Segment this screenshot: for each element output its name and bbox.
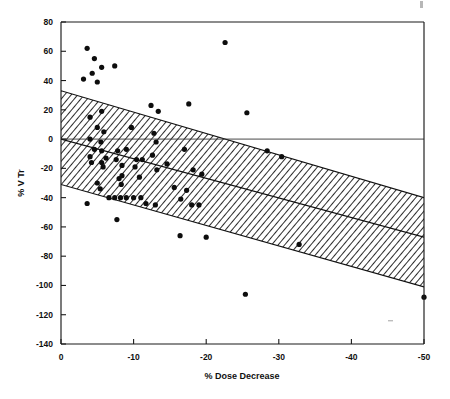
data-point xyxy=(89,160,94,165)
data-point xyxy=(115,148,120,153)
data-point xyxy=(101,129,106,134)
data-point xyxy=(95,79,100,84)
data-point xyxy=(178,197,183,202)
y-tick-label: -20 xyxy=(41,163,54,173)
data-point xyxy=(131,195,136,200)
data-point xyxy=(243,292,248,297)
plot-canvas: 806040200-20-40-60-80-100-120-140 0-10-2… xyxy=(0,0,450,399)
data-point xyxy=(101,164,106,169)
y-tick-label: 80 xyxy=(44,17,54,27)
data-point xyxy=(124,195,129,200)
data-point xyxy=(148,103,153,108)
data-point xyxy=(164,161,169,166)
data-point xyxy=(244,110,249,115)
data-point xyxy=(199,172,204,177)
data-point xyxy=(177,233,182,238)
data-point xyxy=(150,153,155,158)
data-point xyxy=(182,147,187,152)
data-point xyxy=(98,186,103,191)
data-point xyxy=(137,175,142,180)
x-tick-label: -20 xyxy=(200,352,213,362)
data-point xyxy=(297,242,302,247)
data-point xyxy=(85,201,90,206)
data-point xyxy=(87,154,92,159)
x-tick-label: -40 xyxy=(345,352,358,362)
scatter-plot-figure: 806040200-20-40-60-80-100-120-140 0-10-2… xyxy=(0,0,450,399)
data-point xyxy=(184,188,189,193)
data-point xyxy=(90,71,95,76)
bottom-right-speck-artifact xyxy=(388,320,393,321)
data-point xyxy=(85,46,90,51)
data-point xyxy=(114,217,119,222)
y-tick-label: -40 xyxy=(41,193,54,203)
y-tick-label: -140 xyxy=(36,339,53,349)
data-point xyxy=(118,195,123,200)
data-point xyxy=(106,195,111,200)
data-point xyxy=(99,109,104,114)
data-point xyxy=(114,157,119,162)
data-point xyxy=(189,202,194,207)
data-point xyxy=(204,235,209,240)
data-point xyxy=(265,148,270,153)
y-tick-label: 60 xyxy=(44,46,54,56)
data-point xyxy=(129,125,134,130)
data-point xyxy=(99,148,104,153)
y-tick-label: -100 xyxy=(36,280,53,290)
data-point xyxy=(95,180,100,185)
data-point xyxy=(112,63,117,68)
data-point xyxy=(156,109,161,114)
data-point xyxy=(140,157,145,162)
x-axis-title: % Dose Decrease xyxy=(204,371,279,381)
y-tick-label: 40 xyxy=(44,76,54,86)
y-tick-label: 0 xyxy=(48,134,53,144)
top-right-speck-artifact xyxy=(420,1,423,8)
data-point xyxy=(154,139,159,144)
data-point xyxy=(191,167,196,172)
data-point xyxy=(99,65,104,70)
data-point xyxy=(119,182,124,187)
data-point xyxy=(196,202,201,207)
data-point xyxy=(81,76,86,81)
data-point xyxy=(119,173,124,178)
data-point xyxy=(154,167,159,172)
data-point xyxy=(92,147,97,152)
y-tick-label: -80 xyxy=(41,251,54,261)
data-point xyxy=(151,131,156,136)
y-axis-title: % V Tr xyxy=(16,169,26,197)
data-point xyxy=(87,115,92,120)
y-tick-label: 20 xyxy=(44,105,54,115)
data-point xyxy=(87,136,92,141)
data-point xyxy=(138,195,143,200)
x-tick-label: -30 xyxy=(273,352,286,362)
data-point xyxy=(98,139,103,144)
y-tick-label: -60 xyxy=(41,222,54,232)
y-tick-label: -120 xyxy=(36,310,53,320)
data-point xyxy=(279,154,284,159)
data-point xyxy=(103,156,108,161)
x-tick-label: -10 xyxy=(127,352,140,362)
data-point xyxy=(119,163,124,168)
data-point xyxy=(172,185,177,190)
data-point xyxy=(95,125,100,130)
x-tick-label: -50 xyxy=(418,352,431,362)
data-point xyxy=(92,56,97,61)
data-point xyxy=(153,202,158,207)
data-point xyxy=(112,195,117,200)
data-point xyxy=(124,147,129,152)
data-point xyxy=(143,201,148,206)
x-tick-label: 0 xyxy=(59,352,64,362)
data-point xyxy=(222,40,227,45)
data-point xyxy=(132,164,137,169)
data-point xyxy=(134,157,139,162)
data-point xyxy=(186,101,191,106)
